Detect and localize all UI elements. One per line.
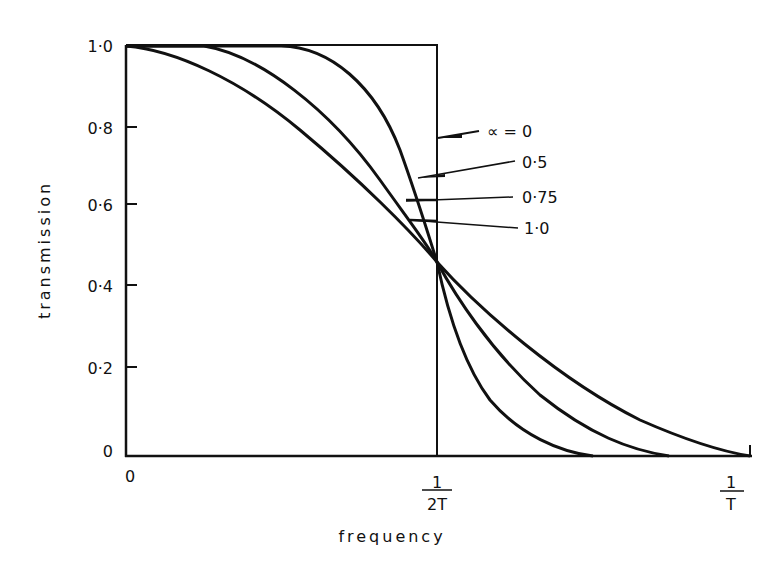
svg-text:1: 1 xyxy=(726,473,736,492)
legend-label-alpha-0: ∝ = 0 xyxy=(487,122,532,141)
y-tick-label-0-2: 0·2 xyxy=(88,359,113,378)
x-tick-label-1-over-2T: 1 2T xyxy=(422,473,452,514)
x-tick-label-0: 0 xyxy=(125,467,135,486)
series-alpha-0 xyxy=(126,45,437,456)
raised-cosine-chart: 1·0 0·8 0·6 0·4 0·2 0 0 1 2T 1 T frequen… xyxy=(0,0,784,566)
y-tick-label-0-4: 0·4 xyxy=(88,277,113,296)
y-tick-label-0-8: 0·8 xyxy=(88,119,113,138)
legend-label-alpha-0-5: 0·5 xyxy=(522,153,547,172)
series-alpha-0-75 xyxy=(126,46,669,456)
svg-text:2T: 2T xyxy=(427,495,447,514)
svg-text:T: T xyxy=(725,495,736,514)
y-ticks xyxy=(126,127,137,367)
y-tick-label-1-0: 1·0 xyxy=(88,37,113,56)
x-axis-title: frequency xyxy=(338,527,445,546)
legend-label-alpha-1-0: 1·0 xyxy=(524,219,549,238)
y-tick-label-0-6: 0·6 xyxy=(88,196,113,215)
legend-label-alpha-0-75: 0·75 xyxy=(522,188,558,207)
x-tick-label-1-over-T: 1 T xyxy=(720,473,744,514)
series-alpha-0-5 xyxy=(126,46,593,456)
y-tick-label-0: 0 xyxy=(103,442,113,461)
y-axis-title: transmission xyxy=(35,181,54,319)
svg-text:1: 1 xyxy=(432,473,442,492)
